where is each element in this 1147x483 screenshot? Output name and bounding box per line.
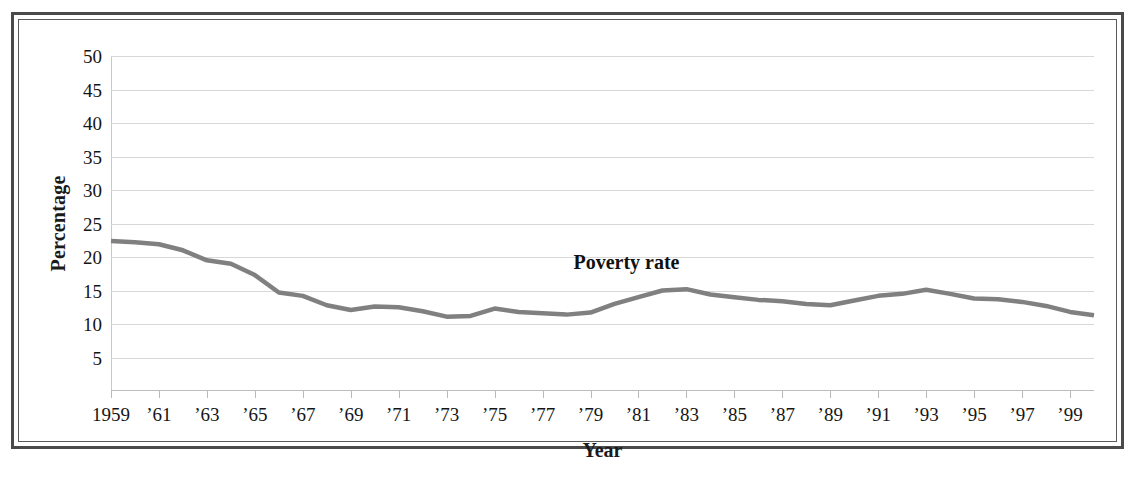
poverty-rate-line-chart: Percentage 5101520253035404550 1959’61’6… [19, 20, 1132, 457]
x-axis-tick-label: ’79 [578, 405, 603, 424]
x-axis-tick-label: ’61 [146, 405, 171, 424]
x-axis-title-label: Year [583, 439, 623, 461]
x-axis-tick-mark [926, 391, 927, 398]
x-axis-tick-label: ’65 [242, 405, 267, 424]
x-axis-tick-label: ’73 [434, 405, 459, 424]
y-axis-tick-label: 45 [83, 80, 102, 99]
x-axis-tick-mark [1070, 391, 1071, 398]
x-axis-tick-label: ’89 [818, 405, 843, 424]
plot-region: 5101520253035404550 1959’61’63’65’67’69’… [111, 56, 1094, 391]
x-axis-tick-mark [734, 391, 735, 398]
x-axis-tick-mark [782, 391, 783, 398]
y-axis-tick-label: 50 [83, 47, 102, 66]
y-axis-tick-label: 35 [83, 147, 102, 166]
series-layer [111, 56, 1094, 391]
x-axis-tick-mark [159, 391, 160, 398]
x-axis-tick-label: ’97 [1009, 405, 1034, 424]
x-axis-tick-label: ’91 [866, 405, 891, 424]
x-axis-tick-label: ’95 [961, 405, 986, 424]
x-axis-tick-mark [974, 391, 975, 398]
x-axis-tick-label: ’83 [674, 405, 699, 424]
x-axis-tick-label: ’85 [722, 405, 747, 424]
y-axis-tick-label: 30 [83, 181, 102, 200]
x-axis-tick-mark [686, 391, 687, 398]
x-axis-tick-mark [1022, 391, 1023, 398]
x-axis-title: Year [111, 439, 1094, 462]
x-axis-tick-label: 1959 [92, 405, 130, 424]
y-axis-tick-label: 20 [83, 248, 102, 267]
x-axis-tick-label: ’87 [770, 405, 795, 424]
x-axis-tick-mark [111, 391, 112, 398]
x-axis-tick-mark [399, 391, 400, 398]
x-axis-tick-mark [830, 391, 831, 398]
x-axis-tick-label: ’75 [482, 405, 507, 424]
series-annotation-poverty-rate: Poverty rate [573, 251, 679, 274]
x-axis-tick-label: ’63 [194, 405, 219, 424]
y-axis-tick-label: 15 [83, 281, 102, 300]
y-axis-tick-label: 40 [83, 114, 102, 133]
x-axis-tick-mark [303, 391, 304, 398]
x-axis-tick-label: ’77 [530, 405, 555, 424]
x-axis-tick-mark [543, 391, 544, 398]
y-axis-title-label: Percentage [47, 175, 70, 271]
y-axis-title: Percentage [45, 56, 71, 391]
x-axis-tick-mark [591, 391, 592, 398]
x-axis-tick-label: ’69 [338, 405, 363, 424]
y-axis-tick-label: 5 [93, 348, 103, 367]
x-axis-tick-mark [447, 391, 448, 398]
x-axis-tick-mark [495, 391, 496, 398]
x-axis-tick-label: ’81 [626, 405, 651, 424]
x-axis-tick-label: ’93 [913, 405, 938, 424]
x-axis-tick-mark [255, 391, 256, 398]
x-axis-tick-label: ’99 [1057, 405, 1082, 424]
x-axis-tick-label: ’71 [386, 405, 411, 424]
y-axis-tick-label: 25 [83, 214, 102, 233]
x-axis-tick-mark [638, 391, 639, 398]
x-axis-tick-label: ’67 [290, 405, 315, 424]
figure-frame: Percentage 5101520253035404550 1959’61’6… [11, 12, 1124, 449]
figure-frame-inner-rule: Percentage 5101520253035404550 1959’61’6… [18, 19, 1117, 442]
y-axis-tick-label: 10 [83, 315, 102, 334]
x-axis-tick-mark [207, 391, 208, 398]
x-axis-tick-mark [878, 391, 879, 398]
x-axis-tick-mark [351, 391, 352, 398]
